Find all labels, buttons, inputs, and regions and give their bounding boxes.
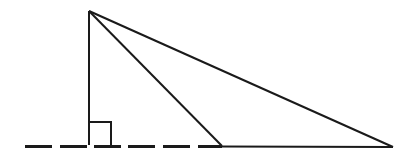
triangle-base	[220, 147, 393, 148]
inner-side	[89, 11, 222, 146]
right-angle-marker	[89, 122, 111, 146]
outer-side	[89, 11, 393, 147]
geometry-diagram	[0, 0, 419, 161]
